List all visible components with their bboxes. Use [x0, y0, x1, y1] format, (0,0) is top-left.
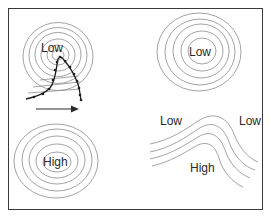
panel-isolated-low: Low	[157, 13, 241, 91]
panel-isolated-high: High	[14, 124, 98, 198]
label-low-ridge-right: Low	[239, 114, 261, 128]
panel-low-with-front: Low	[23, 22, 93, 112]
low-contours-topleft	[23, 22, 93, 93]
label-low-topright: Low	[189, 45, 211, 59]
label-low-topleft: Low	[41, 41, 63, 55]
movement-arrow-icon	[36, 106, 79, 113]
label-low-ridge-left: Low	[160, 114, 182, 128]
label-high-ridge: High	[190, 161, 215, 175]
label-high-bottomleft: High	[43, 155, 68, 169]
weather-diagram: Low Low High Low Low High	[0, 0, 271, 217]
panel-ridge: Low Low High	[150, 114, 261, 187]
